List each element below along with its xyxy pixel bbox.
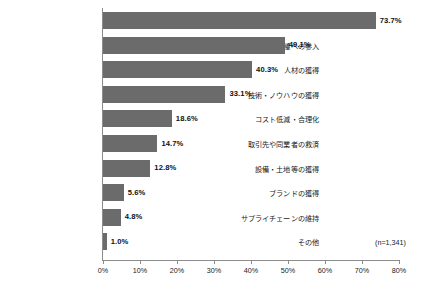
bar-value-label: 1.0% — [111, 237, 129, 246]
bar-value-label: 5.6% — [128, 188, 146, 197]
bar-row: 新事業展開・異業種への参入49.1% — [0, 37, 422, 62]
bar-row: サプライチェーンの維持4.8% — [0, 209, 422, 234]
bar-row: コスト低減・合理化18.6% — [0, 110, 422, 135]
category-label: 人材の獲得 — [284, 65, 320, 75]
bar-row: その他1.0% — [0, 233, 422, 258]
x-axis-tick-mark — [362, 260, 363, 264]
x-axis-tick-label: 80% — [392, 266, 406, 275]
bar — [103, 37, 285, 54]
x-axis-tick-label: 10% — [133, 266, 147, 275]
x-axis-tick-label: 70% — [355, 266, 369, 275]
category-label: 設備・土地等の獲得 — [255, 164, 319, 174]
bar-row: 技術・ノウハウの獲得33.1% — [0, 86, 422, 111]
bar — [103, 86, 225, 103]
bar-row: ブランドの獲得5.6% — [0, 184, 422, 209]
bar — [103, 12, 376, 29]
bar-value-label: 14.7% — [161, 139, 183, 148]
bar — [103, 233, 107, 250]
bar-value-label: 40.3% — [256, 65, 278, 74]
bar-value-label: 49.1% — [289, 40, 311, 49]
sample-size-annotation: (n=1,341) — [375, 238, 406, 247]
x-axis-tick-label: 60% — [318, 266, 332, 275]
category-label: サプライチェーンの維持 — [241, 213, 319, 223]
category-label: その他 — [298, 237, 319, 247]
bar-row: 売上・市場シェアの拡大73.7% — [0, 12, 422, 37]
bar-value-label: 4.8% — [125, 212, 143, 221]
x-axis-tick-mark — [214, 260, 215, 264]
bar-value-label: 18.6% — [176, 114, 198, 123]
x-axis-tick-label: 30% — [207, 266, 221, 275]
x-axis-tick-mark — [399, 260, 400, 264]
bar — [103, 61, 252, 78]
bar-value-label: 33.1% — [229, 89, 251, 98]
x-axis-tick-mark — [140, 260, 141, 264]
bar — [103, 135, 157, 152]
bar — [103, 184, 124, 201]
bar-row: 設備・土地等の獲得12.8% — [0, 160, 422, 185]
x-axis-tick-mark — [325, 260, 326, 264]
x-axis-tick-mark — [177, 260, 178, 264]
x-axis-tick-mark — [103, 260, 104, 264]
bar — [103, 209, 121, 226]
x-axis-tick-mark — [288, 260, 289, 264]
x-axis-tick-label: 0% — [98, 266, 108, 275]
bar-value-label: 73.7% — [380, 16, 402, 25]
x-axis-tick-label: 40% — [244, 266, 258, 275]
category-label: 取引先や同業者の救済 — [248, 139, 319, 149]
bar — [103, 160, 150, 177]
x-axis-tick-label: 20% — [170, 266, 184, 275]
category-label: ブランドの獲得 — [269, 188, 319, 198]
x-axis-tick-label: 50% — [281, 266, 295, 275]
bar-value-label: 12.8% — [154, 163, 176, 172]
x-axis-tick-mark — [251, 260, 252, 264]
category-label: 技術・ノウハウの獲得 — [248, 90, 319, 100]
bar — [103, 110, 172, 127]
bar-row: 取引先や同業者の救済14.7% — [0, 135, 422, 160]
bar-row: 人材の獲得40.3% — [0, 61, 422, 86]
category-label: コスト低減・合理化 — [255, 114, 319, 124]
horizontal-bar-chart: 売上・市場シェアの拡大73.7%新事業展開・異業種への参入49.1%人材の獲得4… — [0, 0, 422, 288]
